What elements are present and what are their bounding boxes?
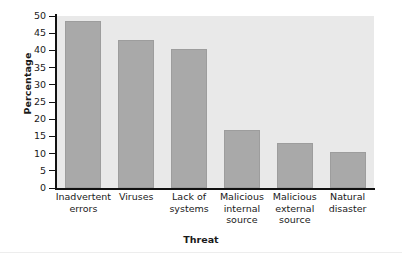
bar	[330, 152, 366, 188]
y-axis-tick	[49, 50, 55, 51]
y-axis-tick-label: 50	[20, 11, 46, 21]
y-axis-tick	[49, 170, 55, 171]
y-axis-tick	[49, 153, 55, 154]
bottom-divider	[0, 252, 402, 253]
y-axis-tick	[49, 84, 55, 85]
y-axis-tick-label: 5	[20, 166, 46, 176]
bar-series	[57, 16, 374, 188]
x-axis-title: Threat	[0, 234, 402, 245]
y-axis-tick	[49, 102, 55, 103]
y-axis-tick	[49, 16, 55, 17]
y-axis-tick-label: 45	[20, 28, 46, 38]
bar	[224, 130, 260, 188]
bar	[277, 143, 313, 188]
bar	[118, 40, 154, 188]
y-axis-tick	[49, 67, 55, 68]
y-axis-tick	[49, 136, 55, 137]
y-axis-tick-label: 35	[20, 63, 46, 73]
y-axis-tick	[49, 188, 55, 189]
y-axis-tick-label: 15	[20, 131, 46, 141]
y-axis-tick-label: 40	[20, 45, 46, 55]
bar	[65, 21, 101, 188]
y-axis-tick-label: 25	[20, 97, 46, 107]
x-axis-category-label: Natural disaster	[315, 191, 381, 214]
y-axis-tick-label: 10	[20, 149, 46, 159]
y-axis-tick	[49, 119, 55, 120]
y-axis-tick	[49, 33, 55, 34]
bar-chart-figure: Percentage 50454035302520151050 Inadvert…	[0, 0, 402, 260]
y-axis-tick-label: 20	[20, 114, 46, 124]
x-axis-line	[55, 188, 375, 190]
y-axis-tick-label: 30	[20, 80, 46, 90]
bar	[171, 49, 207, 188]
y-axis-tick-label: 0	[20, 183, 46, 193]
